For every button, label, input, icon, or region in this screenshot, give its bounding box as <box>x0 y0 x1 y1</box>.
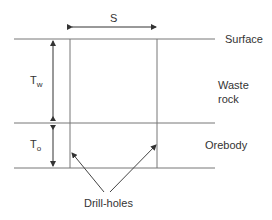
waste-rock-label-line1: Waste <box>218 79 249 91</box>
orebody-label: Orebody <box>205 139 248 151</box>
pointer-arrow-left <box>72 153 104 192</box>
surface-label: Surface <box>225 33 263 45</box>
waste-rock-label-line2: rock <box>218 93 239 105</box>
ore-thickness-arrow-top-head <box>50 125 56 130</box>
waste-thickness-arrow-bottom-head <box>50 116 56 121</box>
ore-thickness-label: To <box>30 138 42 153</box>
waste-thickness-label: Tw <box>30 74 43 89</box>
spacing-label: S <box>110 12 117 24</box>
drill-holes-label: Drill-holes <box>84 197 133 209</box>
drillhole-diagram: S Tw To Surface Waste rock Orebody Drill… <box>0 0 272 220</box>
